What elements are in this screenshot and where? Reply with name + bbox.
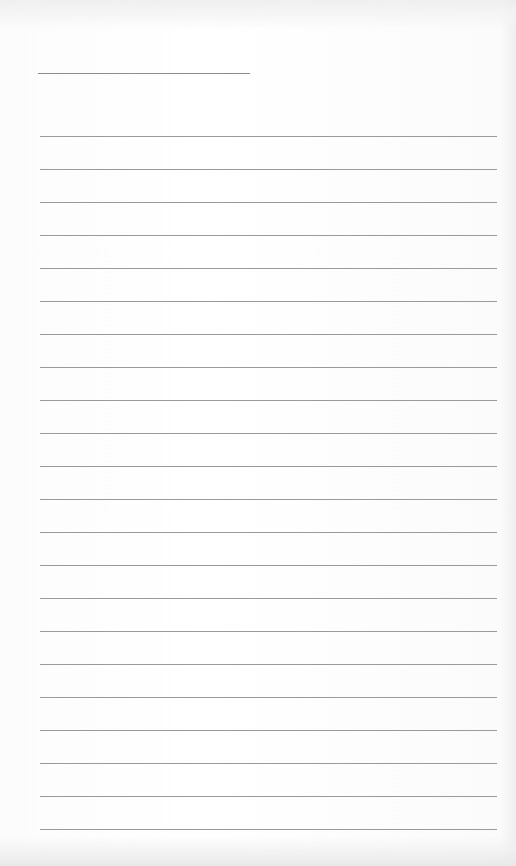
ruled-line	[40, 136, 497, 137]
header-name-line	[38, 73, 250, 74]
ruled-line	[40, 301, 497, 302]
ruled-line	[40, 631, 497, 632]
ruled-line	[40, 565, 497, 566]
ruled-line	[40, 829, 497, 830]
ruled-line	[40, 235, 497, 236]
ruled-line	[40, 202, 497, 203]
ruled-line	[40, 730, 497, 731]
ruled-line	[40, 598, 497, 599]
bottom-edge-shading	[0, 836, 516, 866]
ruled-line	[40, 763, 497, 764]
ruled-line	[40, 532, 497, 533]
ruled-line	[40, 796, 497, 797]
ruled-line	[40, 466, 497, 467]
ruled-line	[40, 664, 497, 665]
top-bleed-through-shading	[0, 0, 516, 30]
lined-paper-sheet	[0, 0, 516, 866]
ruled-line	[40, 169, 497, 170]
ruled-line	[40, 268, 497, 269]
ruled-line	[40, 334, 497, 335]
ruled-line	[40, 433, 497, 434]
ruled-line	[40, 499, 497, 500]
ruled-line	[40, 367, 497, 368]
ruled-line	[40, 697, 497, 698]
ruled-line	[40, 400, 497, 401]
